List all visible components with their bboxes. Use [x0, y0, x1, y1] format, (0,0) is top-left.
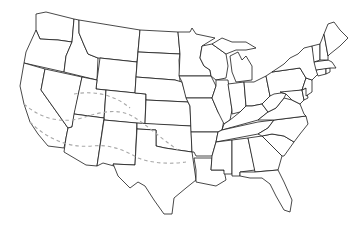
- state-outlines: [20, 12, 348, 214]
- state-michigan-lower: [230, 52, 252, 82]
- us-map: [0, 0, 358, 229]
- state-colorado: [104, 90, 146, 124]
- state-rhode-island: [326, 68, 330, 74]
- state-massachusetts: [314, 60, 336, 70]
- state-kansas: [145, 100, 191, 126]
- state-maine: [324, 22, 348, 56]
- state-new-mexico: [97, 120, 137, 166]
- state-wyoming: [96, 58, 137, 93]
- state-florida: [240, 170, 292, 212]
- state-north-dakota: [138, 30, 180, 54]
- state-washington: [36, 12, 74, 42]
